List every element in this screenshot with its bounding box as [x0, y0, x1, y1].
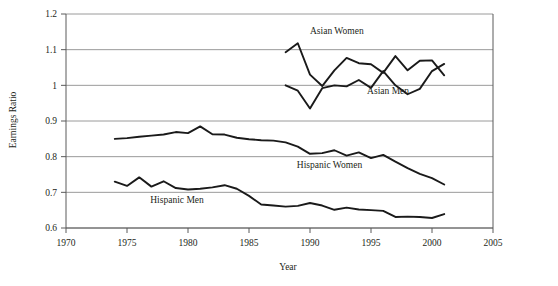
- y-tick-label: 1.2: [45, 9, 57, 19]
- y-tick-label: 0.8: [45, 152, 57, 162]
- y-tick-label: 1.1: [45, 45, 57, 55]
- series-label-asian-men: Asian Men: [367, 86, 409, 96]
- x-tick-label: 1995: [362, 238, 381, 248]
- x-tick-label: 1975: [118, 238, 137, 248]
- y-tick-label: 0.9: [45, 116, 57, 126]
- x-tick-label: 1980: [179, 238, 198, 248]
- chart-background: [0, 0, 558, 286]
- y-axis-title: Earnings Ratio: [8, 91, 18, 148]
- y-tick-label: 1: [52, 81, 57, 91]
- x-tick-label: 1985: [240, 238, 259, 248]
- y-tick-label: 0.7: [45, 188, 57, 198]
- series-label-asian-women: Asian Women: [310, 26, 364, 36]
- series-label-hispanic-women: Hispanic Women: [297, 160, 363, 170]
- earnings-ratio-line-chart: 19701975198019851990199520002005 0.60.70…: [0, 0, 558, 286]
- x-tick-label: 2000: [423, 238, 442, 248]
- chart-figure: 19701975198019851990199520002005 0.60.70…: [0, 0, 558, 286]
- series-label-hispanic-men: Hispanic Men: [150, 195, 204, 205]
- x-tick-label: 2005: [484, 238, 503, 248]
- x-axis-title: Year: [279, 262, 297, 272]
- y-tick-label: 0.6: [45, 223, 57, 233]
- x-tick-label: 1970: [57, 238, 76, 248]
- x-tick-label: 1990: [301, 238, 320, 248]
